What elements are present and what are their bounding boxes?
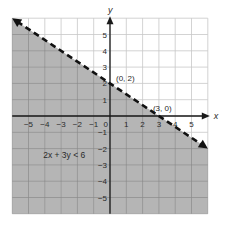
- x-tick-label: −4: [40, 120, 50, 129]
- x-tick-label: 3: [157, 120, 162, 129]
- y-tick-label: −2: [98, 145, 108, 154]
- x-tick-label: 5: [189, 120, 194, 129]
- x-tick-label: −2: [73, 120, 83, 129]
- y-tick-label: 4: [103, 47, 108, 56]
- x-tick-label: 2: [140, 120, 145, 129]
- x-tick-label: 1: [124, 120, 129, 129]
- y-tick-label: −4: [98, 177, 108, 186]
- y-tick-label: −3: [98, 161, 108, 170]
- y-axis-arrow-icon: [107, 16, 114, 24]
- y-tick-label: −1: [98, 128, 108, 137]
- y-tick-label: 3: [103, 63, 108, 72]
- point-label-3-0: (3, 0): [153, 104, 172, 113]
- x-axis-label: x: [213, 111, 219, 121]
- point-label-0-2: (0, 2): [116, 74, 135, 83]
- x-tick-label: −5: [24, 120, 34, 129]
- y-axis-label: y: [107, 5, 113, 15]
- x-tick-label: −3: [57, 120, 67, 129]
- y-tick-label: 5: [103, 31, 108, 40]
- graph: xy −5−4−3−2−1123450−5−4−3−2−112345 (0, 2…: [0, 0, 228, 230]
- x-axis-arrow-icon: [202, 113, 210, 120]
- y-tick-label: −5: [98, 194, 108, 203]
- inequality-label: 2x + 3y < 6: [43, 150, 85, 160]
- y-tick-label: 1: [103, 96, 108, 105]
